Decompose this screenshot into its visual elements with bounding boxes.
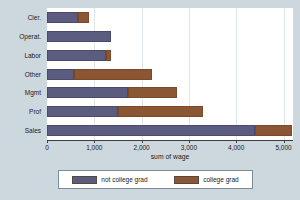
y-axis-labels: Cler.Operat.LaborOtherMgmtProfSales [0,8,45,140]
y-axis-tick-label: Prof [29,106,41,117]
bar-segment [118,106,202,117]
y-axis-tick-label: Cler. [28,12,41,23]
bar-row [47,31,111,42]
x-axis-line [47,140,293,141]
bar-row [47,12,89,23]
bar-segment [106,50,111,61]
x-axis-tick-label: 2,000 [133,144,149,151]
x-axis-tick [284,140,285,143]
bar-segment [255,125,292,136]
bar-segment [47,106,118,117]
x-axis-tick [189,140,190,143]
bar-row [47,50,111,61]
y-axis-tick-label: Other [25,69,41,80]
bar-segment [47,87,128,98]
x-axis-tick-label: 3,000 [181,144,197,151]
bar-row [47,87,177,98]
bar-segment [128,87,177,98]
bar-chart: Cler.Operat.LaborOtherMgmtProfSales 01,0… [0,0,300,200]
x-axis-title: sum of wage [47,153,293,160]
chart-legend: not college gradcollege grad [58,170,253,189]
x-axis-tick [142,140,143,143]
bar-row [47,125,292,136]
x-axis-tick [236,140,237,143]
legend-swatch [174,176,199,184]
x-axis-tick [47,140,48,143]
bar-segment [78,12,89,23]
y-axis-tick-label: Operat. [19,31,41,42]
y-axis-tick-label: Labor [24,50,41,61]
x-axis-tick-label: 0 [45,144,49,151]
legend-swatch [72,176,97,184]
y-axis-tick-label: Mgmt [25,87,41,98]
legend-entry: college grad [174,176,238,184]
bar-row [47,69,152,80]
x-axis-tick-label: 5,000 [275,144,291,151]
x-axis-tick-label: 1,000 [86,144,102,151]
bar-segment [47,31,111,42]
bar-segment [47,12,78,23]
bar-segment [47,125,255,136]
y-axis-tick-label: Sales [25,125,41,136]
legend-label: college grad [203,176,238,183]
bar-segment [47,69,74,80]
bar-row [47,106,203,117]
bars-layer [47,8,293,140]
bar-segment [74,69,153,80]
legend-entry: not college grad [72,176,147,184]
bar-segment [47,50,106,61]
legend-label: not college grad [101,176,147,183]
x-axis-tick [94,140,95,143]
x-axis-tick-label: 4,000 [228,144,244,151]
plot-area [47,8,293,140]
